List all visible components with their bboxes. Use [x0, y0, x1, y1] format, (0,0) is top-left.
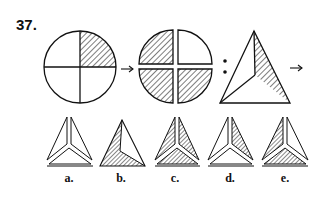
- option-c-figure[interactable]: [155, 117, 200, 166]
- option-d-figure[interactable]: [208, 117, 254, 166]
- option-c-label[interactable]: c.: [160, 171, 190, 186]
- triangle-given-figure: [220, 31, 290, 103]
- circle-exploded-figure: [139, 30, 212, 103]
- analogy-colon: [223, 59, 227, 74]
- option-b-label[interactable]: b.: [106, 171, 136, 186]
- option-e-figure[interactable]: [262, 117, 308, 166]
- option-d-label[interactable]: d.: [215, 171, 245, 186]
- option-a-label[interactable]: a.: [54, 171, 84, 186]
- option-b-figure[interactable]: [100, 120, 145, 166]
- arrow-right-icon: [121, 66, 133, 72]
- arrow-right-icon: [290, 65, 302, 71]
- circle-whole-figure: [44, 31, 116, 103]
- option-e-label[interactable]: e.: [270, 171, 300, 186]
- option-a-figure[interactable]: [47, 117, 93, 166]
